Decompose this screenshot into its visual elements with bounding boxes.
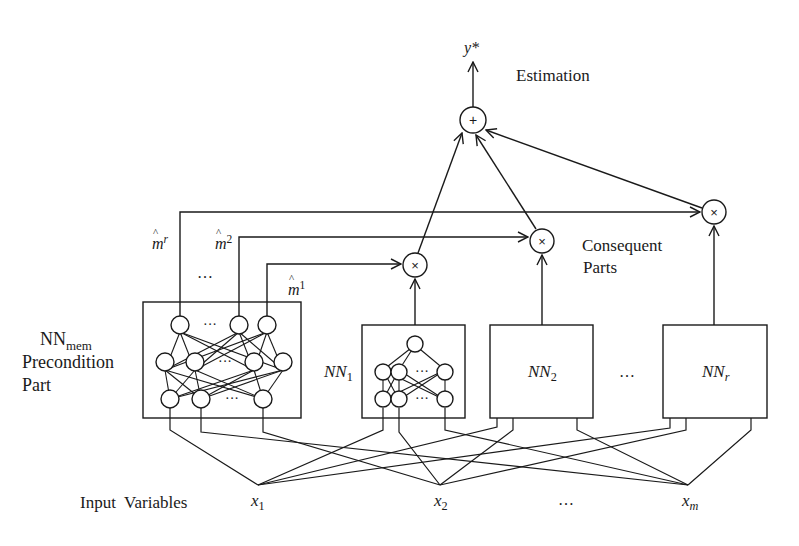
nnr-label: NNr bbox=[702, 363, 729, 380]
estimation-label: Estimation bbox=[516, 67, 590, 84]
precondition-label-line2: Precondition bbox=[22, 353, 114, 371]
membership-line-2 bbox=[239, 237, 528, 332]
input-connections bbox=[170, 408, 751, 485]
input-ellipsis: … bbox=[558, 492, 574, 508]
membership-label-2: m2 bbox=[215, 236, 232, 252]
precondition-label-line3: Part bbox=[22, 376, 51, 394]
consequent-parts-label-line1: Consequent bbox=[582, 237, 662, 254]
output-label: y* bbox=[464, 40, 479, 56]
neuro-fuzzy-architecture-diagram: + × × × ··· ··· ··· ··· ··· bbox=[0, 0, 799, 546]
membership-label-r: mr bbox=[152, 236, 168, 252]
consequent-network-1-neurons bbox=[375, 336, 453, 407]
input-x1-label: x1 bbox=[251, 492, 265, 509]
mem-layer3-ellipsis: ··· bbox=[225, 391, 239, 406]
membership-ellipsis: … bbox=[197, 265, 213, 281]
membership-line-r bbox=[180, 212, 700, 332]
membership-line-1 bbox=[267, 264, 401, 332]
nn2-label: NN2 bbox=[528, 363, 557, 380]
product2-to-sum bbox=[476, 135, 536, 229]
product1-to-sum bbox=[418, 133, 462, 253]
mem-layer2-ellipsis: ··· bbox=[218, 354, 232, 369]
product-symbol-r: × bbox=[710, 205, 718, 220]
sum-symbol: + bbox=[469, 112, 477, 128]
input-xm-label: xm bbox=[682, 492, 698, 509]
input-x2-label: x2 bbox=[434, 492, 448, 509]
productr-to-sum bbox=[486, 130, 702, 208]
product-symbol-1: × bbox=[411, 258, 419, 273]
consequent-parts-label-line2: Parts bbox=[583, 259, 617, 276]
input-variables-label: Input Variables bbox=[80, 494, 187, 511]
nn1-label: NN1 bbox=[324, 363, 353, 380]
consequent-ellipsis: … bbox=[619, 364, 635, 380]
nn1-layer2-ellipsis: ··· bbox=[415, 364, 429, 379]
product-symbol-2: × bbox=[538, 234, 546, 249]
mem-layer1-ellipsis: ··· bbox=[203, 317, 217, 332]
membership-label-1: m1 bbox=[288, 282, 305, 298]
precondition-title: NNmem bbox=[40, 330, 92, 348]
nn1-layer3-ellipsis: ··· bbox=[415, 391, 429, 406]
